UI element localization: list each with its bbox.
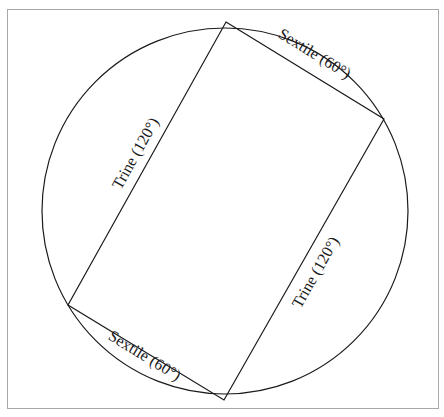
label-sextile-top: Sextile (60°) [275, 25, 354, 83]
aspect-diagram: Sextile (60°) Sextile (60°) Trine (120°)… [0, 0, 444, 417]
zodiac-circle [42, 28, 408, 394]
label-trine-left: Trine (120°) [108, 115, 162, 193]
